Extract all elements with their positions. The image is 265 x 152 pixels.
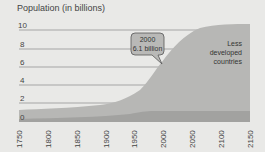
- x-axis-labels: 1750 1800 1850 1900 1950 2000 2050 2100 …: [15, 130, 255, 148]
- svg-text:Less: Less: [227, 40, 242, 47]
- svg-text:1950: 1950: [130, 130, 139, 148]
- svg-text:1900: 1900: [102, 130, 111, 148]
- svg-text:developed: developed: [210, 49, 242, 57]
- y-tick-8: 8: [20, 40, 25, 49]
- y-tick-10: 10: [18, 21, 27, 30]
- callout-value: 6.1 billion: [133, 45, 163, 52]
- y-tick-2: 2: [20, 94, 25, 103]
- svg-text:countries: countries: [214, 58, 243, 65]
- population-chart: 10 8 6 4 2 0 1750 1800 1850 1900 1950 20…: [0, 0, 265, 152]
- svg-text:2050: 2050: [188, 130, 197, 148]
- svg-text:2100: 2100: [217, 130, 226, 148]
- callout-year: 2000: [140, 36, 156, 43]
- svg-text:1800: 1800: [44, 130, 53, 148]
- svg-text:1850: 1850: [73, 130, 82, 148]
- y-tick-0: 0: [20, 113, 25, 122]
- svg-text:1750: 1750: [15, 130, 24, 148]
- y-tick-6: 6: [20, 58, 25, 67]
- y-tick-4: 4: [20, 76, 25, 85]
- callout-2000: 2000 6.1 billion: [131, 33, 164, 64]
- svg-text:2150: 2150: [246, 130, 255, 148]
- svg-text:2000: 2000: [159, 130, 168, 148]
